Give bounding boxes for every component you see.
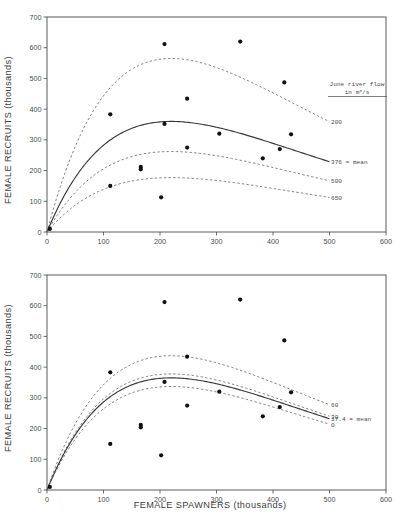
figure-root: 0100200300400500600700010020030040050060… <box>0 0 405 518</box>
y-axis-title-top: FEMALE RECRUITS (thousands) <box>3 56 13 204</box>
y-axis-title-bottom: FEMALE RECRUITS (thousands) <box>3 304 13 452</box>
x-axis-title: FEMALE SPAWNERS (thousands) <box>134 500 287 510</box>
axis-labels-layer: FEMALE RECRUITS (thousands) FEMALE RECRU… <box>0 0 405 518</box>
